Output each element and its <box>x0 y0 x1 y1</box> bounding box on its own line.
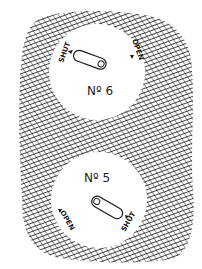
dial-6-number-label: Nº 6 <box>87 84 113 98</box>
dial-5-number-label: Nº 5 <box>84 171 110 185</box>
valve-dials-illustration: Nº 6 SHUT OPEN Nº 5 OPEN SHUT <box>0 0 202 269</box>
dial-no-6[interactable]: Nº 6 SHUT OPEN <box>49 24 145 120</box>
dial-no-5[interactable]: Nº 5 OPEN SHUT <box>51 152 147 248</box>
